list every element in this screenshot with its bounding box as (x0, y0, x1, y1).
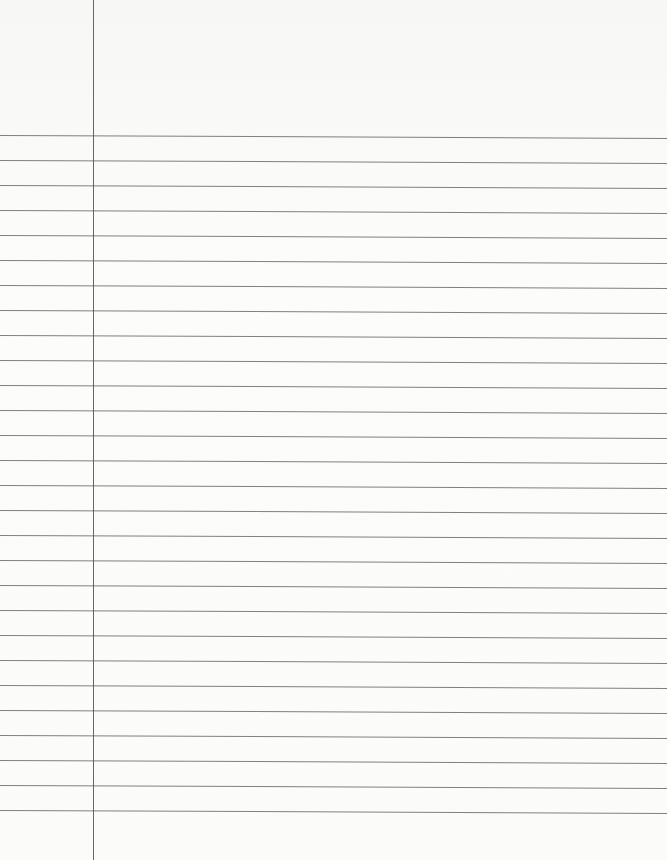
ruled-line (0, 435, 667, 439)
ruled-line (0, 585, 667, 589)
ruled-line (0, 460, 667, 464)
ruled-line (0, 285, 667, 289)
lined-paper (0, 0, 667, 860)
ruled-line (0, 160, 667, 164)
ruled-line (0, 510, 667, 514)
ruled-line (0, 235, 667, 239)
margin-line (93, 0, 94, 860)
ruled-line (0, 310, 667, 314)
ruled-line (0, 560, 667, 564)
ruled-line (0, 360, 667, 364)
ruled-line (0, 185, 667, 189)
ruled-line (0, 260, 667, 264)
ruled-line (0, 760, 667, 764)
ruled-line (0, 660, 667, 664)
ruled-line (0, 610, 667, 614)
ruled-line (0, 535, 667, 539)
ruled-line (0, 710, 667, 714)
ruled-line (0, 485, 667, 489)
ruled-line (0, 785, 667, 789)
ruled-line (0, 385, 667, 389)
ruled-line (0, 410, 667, 414)
ruled-line (0, 810, 667, 814)
ruled-line (0, 210, 667, 214)
ruled-line (0, 135, 667, 139)
ruled-line (0, 735, 667, 739)
ruled-line (0, 685, 667, 689)
ruled-line (0, 635, 667, 639)
ruled-line (0, 335, 667, 339)
